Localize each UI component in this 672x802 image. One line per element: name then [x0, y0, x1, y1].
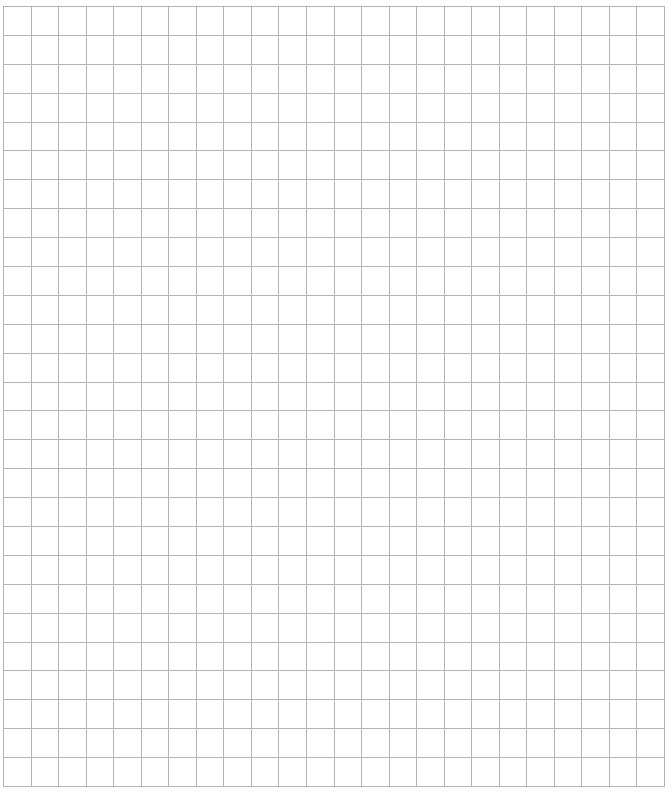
grid-paper — [3, 6, 665, 787]
grid-lines — [3, 6, 665, 787]
